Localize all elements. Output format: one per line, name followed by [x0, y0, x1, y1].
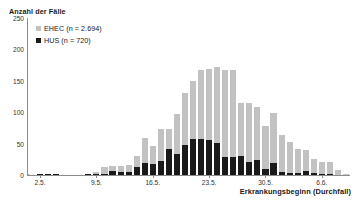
bar-segment-ehec — [222, 70, 228, 158]
bar-column — [214, 67, 220, 175]
bar-segment-hus — [311, 173, 317, 175]
legend-label-ehec: EHEC (n = 2.694) — [44, 24, 102, 33]
bar-segment-ehec — [158, 129, 164, 162]
bar-segment-hus — [166, 149, 172, 175]
bar-column — [166, 129, 172, 175]
bar-segment-ehec — [238, 103, 244, 156]
bar-column — [53, 174, 59, 175]
bar-column — [295, 149, 301, 175]
bar-column — [134, 156, 140, 175]
y-tick-label: 150 — [13, 77, 24, 84]
legend-item-ehec[interactable]: EHEC (n = 2.694) — [36, 23, 102, 33]
bar-segment-ehec — [254, 107, 260, 160]
bar-column — [270, 113, 276, 175]
bar-column — [190, 81, 196, 175]
bar-segment-hus — [45, 174, 51, 175]
bar-segment-ehec — [327, 162, 333, 174]
bar-segment-hus — [150, 164, 156, 175]
x-tick-mark — [265, 175, 266, 178]
bar-column — [303, 150, 309, 175]
legend: EHEC (n = 2.694) HUS (n = 720) — [36, 23, 102, 47]
bar-segment-ehec — [142, 138, 148, 163]
bar-segment-hus — [142, 163, 148, 175]
legend-label-hus: HUS (n = 720) — [44, 36, 91, 45]
bar-column — [287, 142, 293, 175]
bar-column — [262, 126, 268, 175]
bar-column — [126, 165, 132, 175]
bar-segment-ehec — [319, 162, 325, 174]
y-tick-label: 100 — [13, 109, 24, 116]
bar-segment-hus — [327, 174, 333, 175]
bar-segment-ehec — [279, 135, 285, 172]
bar-column — [101, 167, 107, 175]
bar-column — [335, 170, 341, 175]
bar-segment-ehec — [311, 159, 317, 173]
bar-segment-hus — [246, 162, 252, 175]
bar-column — [150, 145, 156, 175]
bar-segment-hus — [303, 171, 309, 175]
x-tick-label: 16.5. — [145, 179, 160, 186]
bar-segment-hus — [126, 172, 132, 175]
bar-segment-ehec — [262, 126, 268, 169]
bar-segment-ehec — [174, 114, 180, 154]
bar-column — [246, 103, 252, 175]
bar-segment-ehec — [206, 69, 212, 141]
bar-segment-ehec — [295, 149, 301, 173]
bar-segment-hus — [174, 154, 180, 175]
bar-segment-ehec — [126, 165, 132, 172]
legend-item-hus[interactable]: HUS (n = 720) — [36, 35, 102, 45]
bar-segment-hus — [287, 173, 293, 175]
bar-segment-hus — [254, 160, 260, 175]
y-tick-label: 250 — [13, 15, 24, 22]
bar-segment-ehec — [190, 81, 196, 139]
bar-segment-hus — [198, 139, 204, 175]
bar-column — [158, 129, 164, 175]
bar-segment-ehec — [287, 142, 293, 173]
bar-segment-hus — [214, 143, 220, 175]
bar-column — [279, 135, 285, 175]
legend-swatch-hus-icon — [36, 38, 41, 43]
bar-segment-hus — [118, 172, 124, 175]
x-tick-label: 23.5. — [202, 179, 217, 186]
bar-segment-ehec — [166, 129, 172, 149]
bar-column — [85, 174, 91, 175]
x-tick-label: 9.5. — [91, 179, 102, 186]
bar-segment-ehec — [214, 67, 220, 143]
x-tick-mark — [322, 175, 323, 178]
x-tick-label: 2.5. — [35, 179, 46, 186]
bar-segment-ehec — [270, 113, 276, 163]
x-tick-mark — [209, 175, 210, 178]
bar-segment-hus — [109, 171, 115, 175]
bar-segment-hus — [158, 161, 164, 175]
x-tick-mark — [40, 175, 41, 178]
bar-column — [182, 93, 188, 175]
bar-segment-hus — [238, 156, 244, 175]
bar-column — [343, 174, 349, 175]
bar-segment-hus — [182, 145, 188, 175]
x-tick-label: 30.5. — [258, 179, 273, 186]
y-tick-label: 50 — [17, 140, 24, 147]
y-tick-label: 200 — [13, 46, 24, 53]
y-axis-tick-labels: 0 50 100 150 200 250 — [0, 0, 24, 206]
bar-column — [142, 138, 148, 175]
epidemic-curve-chart: Anzahl der Fälle 0 50 100 150 200 250 2.… — [0, 0, 357, 206]
bar-segment-ehec — [246, 103, 252, 161]
bar-column — [118, 166, 124, 175]
bar-column — [222, 70, 228, 176]
bar-segment-ehec — [198, 70, 204, 139]
bar-column — [45, 174, 51, 175]
bar-segment-hus — [190, 139, 196, 175]
x-tick-label: 6.6. — [316, 179, 327, 186]
bar-column — [311, 159, 317, 175]
bar-segment-hus — [230, 157, 236, 175]
bar-segment-hus — [85, 174, 91, 175]
bar-segment-ehec — [230, 70, 236, 157]
bar-column — [198, 70, 204, 176]
bar-column — [230, 70, 236, 175]
bar-column — [254, 107, 260, 175]
bar-segment-hus — [101, 174, 107, 175]
bar-segment-hus — [134, 167, 140, 175]
bar-column — [174, 114, 180, 175]
bar-segment-ehec — [335, 170, 341, 175]
bar-segment-hus — [206, 140, 212, 175]
